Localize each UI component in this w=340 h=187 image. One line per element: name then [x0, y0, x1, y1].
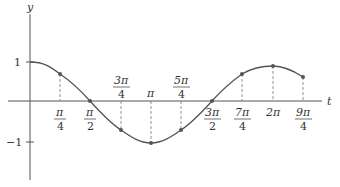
- tick-label-7pi4: 7π 4: [234, 106, 251, 133]
- svg-text:4: 4: [300, 120, 307, 133]
- t-axis-label: t: [327, 95, 332, 108]
- svg-text:4: 4: [57, 120, 64, 133]
- svg-text:4: 4: [239, 120, 246, 133]
- svg-text:4: 4: [178, 88, 185, 101]
- tick-label-3pi2: 3π 2: [204, 106, 221, 133]
- tick-label-9pi4: 9π 4: [295, 106, 312, 133]
- svg-text:3π: 3π: [205, 106, 220, 119]
- svg-text:7π: 7π: [235, 106, 250, 119]
- tick-label-3pi4: 3π 4: [113, 74, 130, 101]
- svg-text:4: 4: [118, 88, 125, 101]
- tick-label-2pi: 2π: [265, 106, 281, 119]
- cosine-curve: [30, 62, 303, 143]
- tick-label-pi2: π 2: [84, 106, 96, 133]
- tick-label-5pi4: 5π 4: [173, 74, 190, 101]
- svg-text:2: 2: [87, 120, 94, 133]
- svg-text:3π: 3π: [114, 74, 129, 87]
- svg-text:π: π: [146, 87, 155, 100]
- svg-text:2π: 2π: [265, 106, 281, 119]
- svg-text:2: 2: [209, 120, 216, 133]
- y-tick-label-1: 1: [14, 56, 21, 69]
- y-tick-label-minus-1: −1: [6, 136, 22, 149]
- tick-label-pi4: π 4: [54, 106, 66, 133]
- svg-text:9π: 9π: [296, 106, 311, 119]
- svg-text:π: π: [85, 106, 94, 119]
- svg-text:π: π: [55, 106, 64, 119]
- tick-label-pi: π: [146, 87, 155, 100]
- y-axis-label: y: [26, 1, 34, 14]
- cosine-chart: y t 1 −1 π 4 π 2 3π: [0, 0, 340, 187]
- svg-text:5π: 5π: [174, 74, 189, 87]
